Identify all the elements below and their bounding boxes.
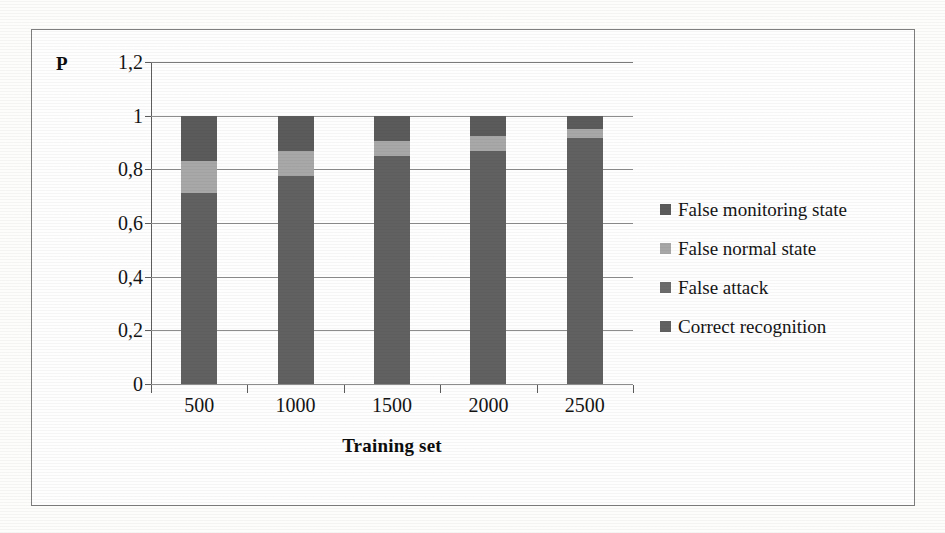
stacked-bar[interactable] xyxy=(567,116,603,384)
x-axis-title: Training set xyxy=(151,435,633,457)
stacked-bar[interactable] xyxy=(278,116,314,384)
y-axis-tick-label: 0,4 xyxy=(83,267,143,287)
legend-label: False normal state xyxy=(678,238,816,260)
legend-swatch-icon xyxy=(660,204,671,215)
bar-segment[interactable] xyxy=(470,151,506,384)
plot-area xyxy=(151,62,633,384)
legend-swatch-icon xyxy=(660,282,671,293)
bar-segment[interactable] xyxy=(181,161,217,193)
bar-segment[interactable] xyxy=(567,129,603,138)
x-axis-tick xyxy=(344,385,345,393)
legend-label: False attack xyxy=(678,277,768,299)
x-axis-tick-label: 2000 xyxy=(440,394,536,416)
bar-segment[interactable] xyxy=(278,176,314,384)
bar-group xyxy=(247,62,343,384)
y-axis-tick-label: 0,2 xyxy=(83,320,143,340)
bar-segment[interactable] xyxy=(181,193,217,384)
bar-segment[interactable] xyxy=(278,151,314,176)
x-axis-tick-label: 2500 xyxy=(537,394,633,416)
x-axis-tick-label: 500 xyxy=(151,394,247,416)
chart-legend: False monitoring stateFalse normal state… xyxy=(660,190,900,346)
bar-group xyxy=(344,62,440,384)
y-axis-title: P xyxy=(56,53,68,75)
x-axis-tick xyxy=(633,385,634,393)
x-axis-tick xyxy=(151,385,152,393)
legend-label: Correct recognition xyxy=(678,316,826,338)
bar-segment[interactable] xyxy=(470,136,506,151)
bar-segment[interactable] xyxy=(374,141,410,156)
bar-segment[interactable] xyxy=(374,116,410,141)
bar-segment[interactable] xyxy=(567,138,603,384)
legend-swatch-icon xyxy=(660,321,671,332)
bar-group xyxy=(537,62,633,384)
stacked-bar[interactable] xyxy=(470,116,506,384)
legend-label: False monitoring state xyxy=(678,199,847,221)
chart-figure: P 00,20,40,60,811,2 5001000150020002500 … xyxy=(0,0,945,533)
bar-segment[interactable] xyxy=(374,156,410,384)
legend-swatch-icon xyxy=(660,243,671,254)
x-axis-tick-label: 1500 xyxy=(344,394,440,416)
y-axis-tick-label: 0,8 xyxy=(83,159,143,179)
bar-group xyxy=(151,62,247,384)
stacked-bar[interactable] xyxy=(181,116,217,384)
bar-segment[interactable] xyxy=(567,116,603,129)
x-axis-tick xyxy=(440,385,441,393)
y-axis-tick-label: 1,2 xyxy=(83,52,143,72)
y-axis-tick-label: 1 xyxy=(83,106,143,126)
bar-segment[interactable] xyxy=(278,116,314,151)
bar-segment[interactable] xyxy=(470,116,506,136)
legend-item[interactable]: Correct recognition xyxy=(660,307,900,346)
bar-segment[interactable] xyxy=(181,116,217,162)
bar-group xyxy=(440,62,536,384)
legend-item[interactable]: False normal state xyxy=(660,229,900,268)
legend-item[interactable]: False attack xyxy=(660,268,900,307)
x-axis-tick xyxy=(537,385,538,393)
stacked-bar[interactable] xyxy=(374,116,410,384)
x-axis-tick-label: 1000 xyxy=(248,394,344,416)
x-axis-tick xyxy=(247,385,248,393)
gridline xyxy=(151,384,633,385)
y-axis-tick-label: 0,6 xyxy=(83,213,143,233)
y-axis-tick-label: 0 xyxy=(83,374,143,394)
legend-item[interactable]: False monitoring state xyxy=(660,190,900,229)
